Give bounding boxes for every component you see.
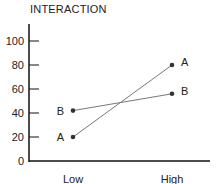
series-line-a: [73, 65, 172, 137]
data-point: [71, 108, 76, 113]
series-label: A: [181, 56, 189, 68]
y-tick-label: 0: [18, 155, 24, 167]
interaction-chart: 020406080100LowHighAABB: [0, 0, 217, 184]
data-point: [170, 63, 175, 68]
x-category-label: Low: [63, 173, 83, 184]
y-tick-label: 20: [12, 131, 24, 143]
y-tick-label: 80: [12, 59, 24, 71]
series-label: B: [57, 105, 64, 117]
x-category-label: High: [161, 173, 184, 184]
data-point: [170, 92, 175, 97]
data-point: [71, 135, 76, 140]
y-tick-label: 60: [12, 83, 24, 95]
y-tick-label: 100: [6, 35, 24, 47]
series-line-b: [73, 94, 172, 111]
series-label: B: [181, 85, 188, 97]
series-label: A: [57, 131, 65, 143]
y-tick-label: 40: [12, 107, 24, 119]
